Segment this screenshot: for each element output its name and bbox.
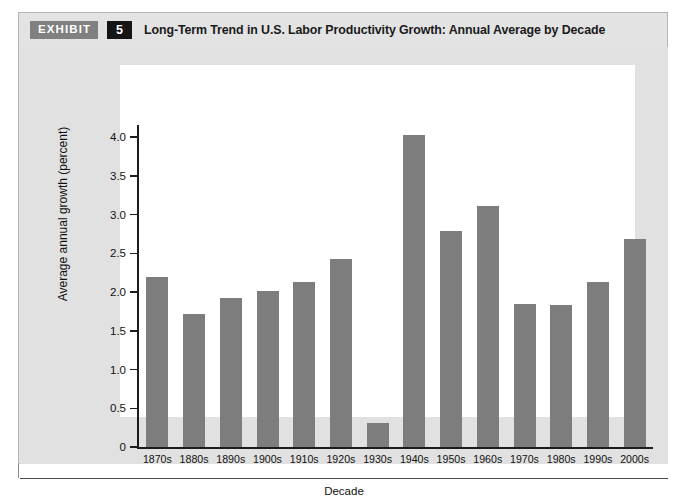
x-axis-title: Decade xyxy=(20,485,668,497)
exhibit-title: Long-Term Trend in U.S. Labor Productivi… xyxy=(144,23,605,37)
bar xyxy=(440,231,462,447)
exhibit-page: EXHIBIT 5 Long-Term Trend in U.S. Labor … xyxy=(0,0,684,497)
y-axis-tick-label: 2.0 xyxy=(90,286,126,298)
y-axis-tick-label: 0 xyxy=(90,441,126,453)
y-axis-tick-label: 1.5 xyxy=(90,325,126,337)
exhibit-header: EXHIBIT 5 Long-Term Trend in U.S. Labor … xyxy=(19,13,667,47)
x-axis-tick-label: 1930s xyxy=(359,453,396,465)
x-axis-tick-label: 1940s xyxy=(396,453,433,465)
bar xyxy=(220,298,242,447)
bar xyxy=(403,135,425,447)
bottom-rule xyxy=(20,478,668,479)
x-axis-tick-label: 2000s xyxy=(616,453,653,465)
y-axis-tick-labels: 00.51.01.52.02.53.03.54.0 xyxy=(80,47,126,464)
y-axis-tick xyxy=(130,253,137,255)
bar xyxy=(514,304,536,447)
bar xyxy=(293,282,315,447)
bar xyxy=(146,277,168,448)
y-axis-tick-label: 3.5 xyxy=(90,170,126,182)
y-axis-tick xyxy=(130,446,137,448)
exhibit-badge: EXHIBIT xyxy=(30,21,98,39)
chart-region: Average annual growth (percent) 00.51.01… xyxy=(20,47,668,464)
y-axis-tick-label: 2.5 xyxy=(90,247,126,259)
bar xyxy=(257,291,279,447)
exhibit-frame: EXHIBIT 5 Long-Term Trend in U.S. Labor … xyxy=(18,12,668,464)
x-axis-tick-label: 1960s xyxy=(469,453,506,465)
exhibit-number-badge: 5 xyxy=(107,21,132,40)
x-axis-tick-label: 1950s xyxy=(433,453,470,465)
y-axis-tick-label: 3.0 xyxy=(90,209,126,221)
x-axis-tick-label: 1990s xyxy=(580,453,617,465)
x-axis-tick-label: 1980s xyxy=(543,453,580,465)
y-axis-tick xyxy=(130,175,137,177)
y-axis-tick-label: 0.5 xyxy=(90,402,126,414)
x-axis-tick-labels: 1870s1880s1890s1900s1910s1920s1930s1940s… xyxy=(139,453,653,473)
y-axis-tick-label: 4.0 xyxy=(90,131,126,143)
bar xyxy=(183,314,205,447)
y-axis-tick xyxy=(130,369,137,371)
bar-series xyxy=(139,47,653,449)
bar xyxy=(587,282,609,447)
y-axis-title: Average annual growth (percent) xyxy=(56,74,70,354)
x-axis-tick-label: 1910s xyxy=(286,453,323,465)
bar xyxy=(330,259,352,447)
x-axis-tick-label: 1880s xyxy=(176,453,213,465)
x-axis-tick-label: 1970s xyxy=(506,453,543,465)
y-axis-tick-label: 1.0 xyxy=(90,364,126,376)
x-axis-tick-label: 1870s xyxy=(139,453,176,465)
y-axis-tick xyxy=(130,136,137,138)
y-axis-tick xyxy=(130,330,137,332)
bar xyxy=(367,423,389,447)
x-axis-tick-label: 1920s xyxy=(323,453,360,465)
x-axis-tick-label: 1890s xyxy=(212,453,249,465)
y-axis-tick xyxy=(130,408,137,410)
y-axis-tick xyxy=(130,214,137,216)
bar xyxy=(477,206,499,447)
y-axis-tick xyxy=(130,291,137,293)
bar xyxy=(624,239,646,447)
x-axis-tick-label: 1900s xyxy=(249,453,286,465)
bar xyxy=(550,305,572,447)
